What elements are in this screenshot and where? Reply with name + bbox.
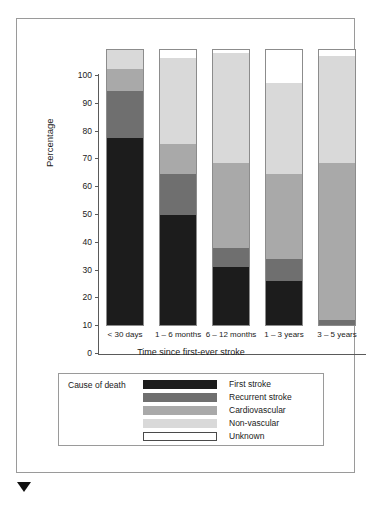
bar-segment — [107, 69, 143, 91]
y-axis-tick-label: 60 — [83, 182, 92, 191]
y-axis-tick: 70 — [95, 158, 99, 159]
bar-segment — [319, 56, 355, 163]
bar-segment — [213, 267, 249, 325]
legend-label: Non-vascular — [229, 419, 279, 428]
y-axis-tick: 90 — [95, 103, 99, 104]
y-axis-tick: 80 — [95, 131, 99, 132]
y-axis-tick: 30 — [95, 270, 99, 271]
bar-segment — [213, 53, 249, 163]
legend-item: Unknown — [143, 431, 264, 442]
y-axis-ticks: 1009080706050403020100 — [78, 74, 99, 355]
bar-segment — [213, 248, 249, 267]
y-axis-tick-label: 80 — [83, 126, 92, 135]
y-axis-tick: 50 — [95, 214, 99, 215]
legend-swatch — [143, 432, 217, 441]
bar-stack — [265, 49, 303, 326]
y-axis-tick-label: 70 — [83, 154, 92, 163]
bar-segment — [213, 163, 249, 248]
bar-segment — [319, 320, 355, 326]
y-axis-tick-label: 90 — [83, 99, 92, 108]
y-axis-tick-label: 20 — [83, 293, 92, 302]
bar-segment — [160, 174, 196, 215]
bar-segment — [160, 58, 196, 143]
legend: Cause of death First strokeRecurrent str… — [58, 373, 324, 446]
legend-item: First stroke — [143, 379, 271, 390]
bar-segment — [266, 50, 302, 83]
legend-item: Recurrent stroke — [143, 392, 292, 403]
y-axis-tick: 100 — [95, 75, 99, 76]
legend-swatch — [143, 393, 217, 402]
x-axis-tick-label: 6 – 12 months — [203, 331, 259, 339]
x-axis-tick-label: 3 – 5 years — [309, 331, 365, 339]
x-axis-tick-label: 1 – 3 years — [256, 331, 312, 339]
bar-segment — [266, 259, 302, 281]
bar-segment — [319, 163, 355, 320]
y-axis-tick: 20 — [95, 297, 99, 298]
y-axis-tick-label: 50 — [83, 210, 92, 219]
legend-swatch — [143, 419, 217, 428]
y-axis-tick-label: 100 — [78, 71, 92, 80]
x-axis-tick-label: 1 – 6 months — [150, 331, 206, 339]
y-axis-tick: 60 — [95, 186, 99, 187]
bar-segment — [160, 144, 196, 174]
bar-segment — [266, 174, 302, 259]
legend-title: Cause of death — [68, 380, 126, 390]
legend-swatch — [143, 406, 217, 415]
bar-segment — [107, 91, 143, 138]
bar-stack — [318, 49, 356, 326]
bar-stack — [106, 49, 144, 326]
legend-item: Non-vascular — [143, 418, 279, 429]
y-axis-label: Percentage — [44, 118, 55, 167]
bar-stack — [159, 49, 197, 326]
y-axis-tick: 10 — [95, 325, 99, 326]
bar-segment — [160, 50, 196, 58]
bar-segment — [266, 83, 302, 174]
legend-label: Recurrent stroke — [229, 393, 292, 402]
y-axis-tick-label: 30 — [83, 265, 92, 274]
bar-stack — [212, 49, 250, 326]
legend-item: Cardiovascular — [143, 405, 286, 416]
y-axis-tick-label: 10 — [83, 321, 92, 330]
y-axis-tick: 40 — [95, 242, 99, 243]
caption-triangle-marker — [17, 482, 31, 492]
legend-label: Cardiovascular — [229, 406, 286, 415]
figure-frame: 1009080706050403020100 Percentage < 30 d… — [16, 18, 355, 473]
bar-segment — [160, 215, 196, 325]
x-axis-tick-label: < 30 days — [97, 331, 153, 339]
bar-segment — [107, 50, 143, 69]
x-axis-label: Time since first-ever stroke — [58, 347, 324, 357]
bar-segment — [266, 281, 302, 325]
legend-label: First stroke — [229, 380, 271, 389]
legend-swatch — [143, 380, 217, 389]
bar-segment — [107, 138, 143, 325]
y-axis-tick-label: 40 — [83, 238, 92, 247]
legend-label: Unknown — [229, 432, 264, 441]
plot-area: 1009080706050403020100 Percentage < 30 d… — [58, 47, 324, 326]
